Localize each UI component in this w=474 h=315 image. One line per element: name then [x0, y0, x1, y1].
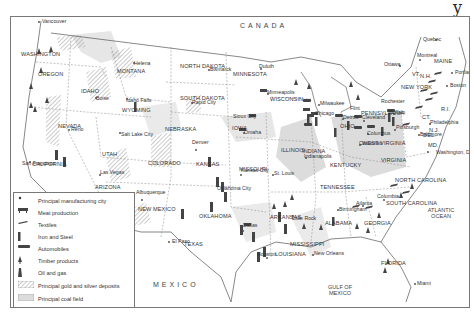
- state-label: NEW YORK: [401, 85, 432, 91]
- city-label: Philadelphia: [430, 120, 458, 125]
- state-label: MAINE: [434, 59, 452, 65]
- city-label: Indianapolis: [304, 154, 332, 159]
- state-label: NEW MEXICO: [138, 207, 176, 213]
- city-label: Albuquerque: [136, 190, 165, 195]
- label-mexico: MEXICO: [153, 281, 199, 288]
- state-label: WASHINGTON: [21, 52, 60, 58]
- state-label: IDAHO: [81, 89, 99, 95]
- city-label: El Paso: [172, 239, 190, 244]
- legend-item-textiles: Textiles: [18, 220, 57, 230]
- city-label: Boston: [450, 83, 466, 88]
- state-label: LOUISIANA: [275, 252, 306, 258]
- city-label: Portland: [455, 70, 470, 75]
- city-label: Minneapolis: [267, 90, 295, 95]
- label-atlantic-ocean: ATLANTIC OCEAN: [421, 208, 461, 219]
- label-gulf-of-mexico: GULF OF MEXICO: [323, 285, 357, 296]
- city-label: Vancouver: [42, 19, 66, 24]
- state-label: COLORADO: [148, 161, 181, 167]
- state-label: MD.: [428, 143, 439, 149]
- city-label: Dallas: [243, 223, 257, 228]
- state-label: R.I.: [441, 107, 450, 113]
- city-label: Omaha: [244, 130, 261, 135]
- state-label: VIRGINIA: [381, 158, 406, 164]
- oil-gas-icon: [18, 269, 34, 277]
- state-label: WISCONSIN: [270, 97, 303, 103]
- city-label: Little Rock: [292, 216, 316, 221]
- automobiles-icon: [18, 245, 34, 253]
- state-label: OREGON: [38, 72, 63, 78]
- city-label: New Orleans: [314, 251, 344, 256]
- state-label: MONTANA: [117, 69, 145, 75]
- us-industry-map: CANADA MEXICO ATLANTIC OCEAN GULF OF MEX…: [10, 16, 470, 308]
- state-label: MISSISSIPPI: [290, 242, 324, 248]
- city-label: Sioux City: [233, 114, 256, 119]
- city-label: San Francisco: [22, 161, 55, 166]
- legend-item-automobiles: Automobiles: [18, 244, 69, 254]
- state-label: WYOMING: [122, 108, 151, 114]
- state-label: OKLAHOMA: [199, 214, 232, 220]
- city-label: Oklahoma City: [217, 186, 251, 191]
- coal-field-swatch: [18, 295, 34, 303]
- label-canada: CANADA: [240, 22, 287, 29]
- iron-steel-icon: [18, 233, 34, 241]
- map-legend: Principal manufacturing city Meat produc…: [13, 192, 135, 308]
- state-label: KENTUCKY: [330, 163, 361, 169]
- city-label: Baltimore: [420, 132, 442, 137]
- legend-item-meat: Meat production: [18, 208, 78, 218]
- city-label: Las Vegas: [100, 170, 124, 175]
- dot-icon: [18, 197, 34, 205]
- city-label: Detroit: [343, 115, 358, 120]
- city-label: Miami: [417, 281, 431, 286]
- city-label: Washington, D.C.: [436, 150, 470, 155]
- state-label: MINNESOTA: [233, 72, 267, 78]
- city-label: Houston: [257, 252, 276, 257]
- city-label: Salt Lake City: [121, 132, 153, 137]
- city-label: Duluth: [259, 64, 274, 69]
- textiles-icon: [18, 221, 34, 229]
- gold-silver-hatch-swatch: [18, 282, 34, 290]
- legend-item-oil-gas: Oil and gas: [18, 268, 66, 278]
- city-label: Quebec: [423, 37, 441, 42]
- city-label: Cleveland: [362, 115, 385, 120]
- city-label: Rapid City: [192, 100, 216, 105]
- city-label: Reno: [71, 127, 83, 132]
- city-label: Chicago: [315, 111, 334, 116]
- state-label: KANSAS: [196, 162, 219, 168]
- city-label: Kansas City: [241, 168, 269, 173]
- meat-icon: [18, 209, 34, 217]
- page-corner-glyph: y: [453, 0, 462, 17]
- city-label: Birmingham: [339, 207, 367, 212]
- state-label: TENNESSEE: [320, 185, 355, 191]
- timber-icon: [18, 257, 34, 265]
- city-label: Buffalo: [389, 110, 405, 115]
- legend-item-gold-silver: Principal gold and silver deposits: [18, 281, 119, 291]
- state-label: SOUTH CAROLINA: [386, 201, 437, 207]
- city-label: Rochester: [381, 99, 405, 104]
- city-label: St. Louis: [274, 171, 294, 176]
- state-label: ARIZONA: [95, 185, 121, 191]
- legend-item-timber: Timber products: [18, 256, 78, 266]
- state-label: UTAH: [102, 152, 117, 158]
- city-label: Bismarck: [210, 67, 231, 72]
- city-label: Helena: [134, 61, 150, 66]
- state-label: ALABAMA: [325, 221, 352, 227]
- state-label: GEORGIA: [364, 221, 391, 227]
- city-label: Denver: [192, 140, 209, 145]
- city-label: Columbus: [367, 131, 390, 136]
- legend-item-coal-field: Principal coal field: [18, 294, 83, 304]
- city-label: Pittsburgh: [396, 125, 419, 130]
- city-label: Idaho Falls: [126, 98, 151, 103]
- city-label: Ottawa: [384, 62, 400, 67]
- state-label: NORTH CAROLINA: [395, 178, 446, 184]
- city-label: Boise: [96, 96, 109, 101]
- legend-item-iron-steel: Iron and Steel: [18, 232, 73, 242]
- state-label: OHIO: [340, 124, 355, 130]
- city-label: Flint: [350, 106, 360, 111]
- state-label: FLORIDA: [381, 261, 406, 267]
- city-label: Montreal: [417, 53, 437, 58]
- state-label: NEBRASKA: [165, 127, 196, 133]
- city-label: Columbia: [377, 194, 399, 199]
- legend-item-manufacturing-city: Principal manufacturing city: [18, 196, 106, 206]
- state-label: N.H.: [420, 74, 432, 80]
- city-label: Cincinnati: [359, 141, 382, 146]
